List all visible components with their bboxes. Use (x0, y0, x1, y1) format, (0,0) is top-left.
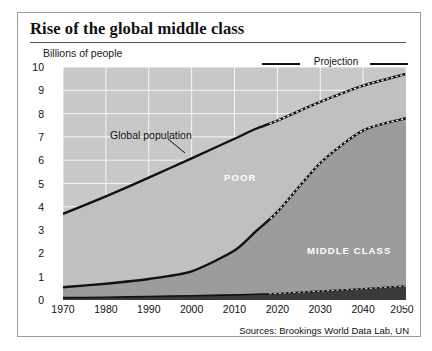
legend-line-left (262, 63, 300, 65)
stacked-area-chart (63, 67, 406, 300)
source-note: Sources: Brookings World Data Lab, UN (239, 325, 409, 336)
plot-area: 10 9 8 7 6 5 4 3 2 1 0 1970 1980 1990 20… (46, 67, 406, 312)
band-label-poor: POOR (224, 172, 256, 183)
y-axis-label: Billions of people (43, 47, 122, 59)
y-tick-5: 5 (24, 178, 44, 190)
annotation-global-population: Global population (110, 129, 192, 141)
y-tick-3: 3 (24, 224, 44, 236)
chart-canvas (63, 67, 406, 300)
x-tick-2020: 2020 (266, 303, 289, 315)
x-tick-2040: 2040 (351, 303, 374, 315)
y-tick-6: 6 (24, 154, 44, 166)
x-tick-1980: 1980 (94, 303, 117, 315)
x-tick-1990: 1990 (137, 303, 160, 315)
x-tick-1970: 1970 (51, 303, 74, 315)
x-tick-2030: 2030 (309, 303, 332, 315)
legend-label-projection: Projection (304, 56, 368, 67)
y-tick-2: 2 (24, 247, 44, 259)
y-tick-9: 9 (24, 84, 44, 96)
x-tick-2000: 2000 (180, 303, 203, 315)
y-tick-8: 8 (24, 108, 44, 120)
title-divider (30, 42, 406, 43)
y-tick-1: 1 (24, 271, 44, 283)
band-label-middle-class: MIDDLE CLASS (307, 245, 391, 256)
legend-line-right (370, 63, 408, 65)
y-tick-10: 10 (24, 61, 44, 73)
chart-frame: Rise of the global middle class Billions… (17, 12, 421, 337)
y-tick-7: 7 (24, 131, 44, 143)
y-tick-4: 4 (24, 201, 44, 213)
x-tick-2010: 2010 (223, 303, 246, 315)
y-tick-0: 0 (24, 294, 44, 306)
band-label-rich: RICH (390, 298, 415, 308)
page-title: Rise of the global middle class (30, 19, 398, 39)
